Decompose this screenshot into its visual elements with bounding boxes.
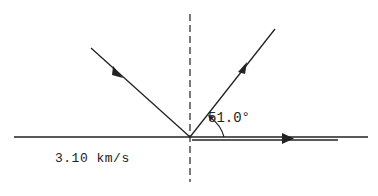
- reflected-arrow-icon: [238, 62, 247, 74]
- angle-label: 51.0°: [208, 110, 250, 126]
- incident-ray: [91, 48, 190, 137]
- incident-arrow-icon: [112, 66, 123, 78]
- refracted-arrow-icon: [282, 133, 294, 144]
- ray-diagram: [0, 0, 378, 196]
- speed-label: 3.10 km/s: [55, 151, 130, 166]
